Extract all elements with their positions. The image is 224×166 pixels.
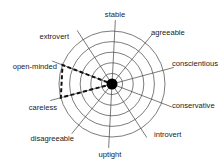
data-series <box>61 65 112 98</box>
axis-label-disagreeable: disagreeable <box>31 134 75 143</box>
spoke-extrovert <box>77 30 112 84</box>
axis-label-conservative: conservative <box>172 101 215 110</box>
axis-label-agreeable: agreeable <box>151 28 185 37</box>
axis-label-conscientious: conscientious <box>172 59 218 68</box>
axis-label-careless: careless <box>29 103 57 112</box>
axis-label-introvert: introvert <box>154 130 182 139</box>
series-profile <box>61 65 112 98</box>
axis-label-open-minded: open-minded <box>13 62 57 71</box>
spoke-introvert <box>112 84 147 138</box>
axis-label-uptight: uptight <box>99 150 123 159</box>
axis-label-extrovert: extrovert <box>39 32 69 41</box>
center-dot <box>107 79 118 90</box>
radar-chart: stableagreeableconscientiousconservative… <box>0 0 224 166</box>
axis-label-stable: stable <box>105 10 125 19</box>
